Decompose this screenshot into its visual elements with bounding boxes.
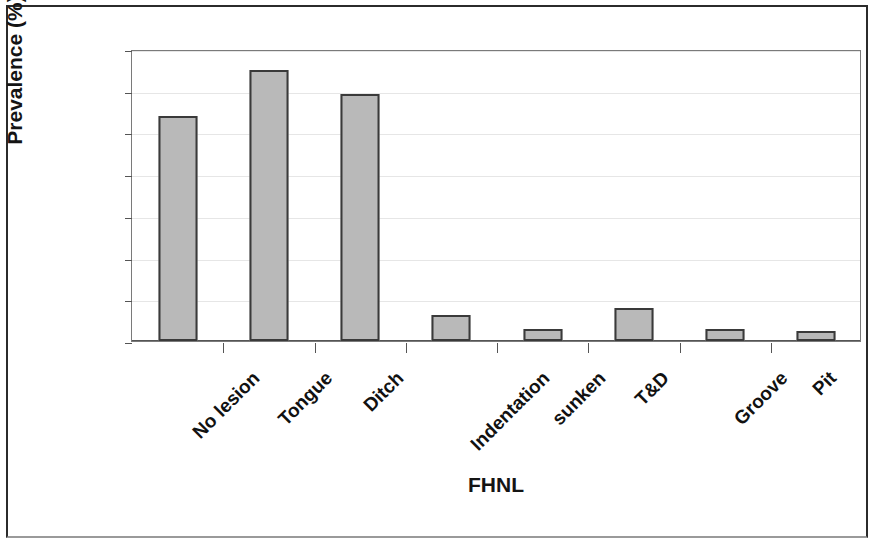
y-tick-mark xyxy=(125,260,132,261)
y-tick-mark xyxy=(125,343,132,344)
x-tick-mark xyxy=(497,343,498,353)
y-tick-mark xyxy=(125,93,132,94)
chart-figure: Prevalence (%) 05101520253035 FHNL No le… xyxy=(0,0,874,541)
bar-slot xyxy=(315,51,406,341)
x-axis-tick-label: T&D xyxy=(631,367,674,410)
y-tick-mark xyxy=(125,301,132,302)
bar-slot xyxy=(680,51,771,341)
plot-area: 05101520253035 xyxy=(131,50,861,342)
x-axis-tick-label: sunken xyxy=(547,367,610,430)
y-tick-mark xyxy=(125,218,132,219)
y-tick-mark xyxy=(125,176,132,177)
bar-slot xyxy=(588,51,679,341)
x-axis-tick-label: Indentation xyxy=(467,367,555,455)
bar[interactable] xyxy=(249,70,288,341)
x-tick-mark xyxy=(315,343,316,353)
bar-slot xyxy=(406,51,497,341)
bar[interactable] xyxy=(158,116,197,341)
x-tick-mark xyxy=(680,343,681,353)
x-axis-tick-label: Tongue xyxy=(274,367,337,430)
x-axis-title: FHNL xyxy=(131,473,861,497)
bar[interactable] xyxy=(706,329,745,342)
x-tick-mark xyxy=(588,343,589,353)
bar[interactable] xyxy=(341,94,380,341)
y-tick-mark xyxy=(125,51,132,52)
bar[interactable] xyxy=(432,315,471,341)
y-tick-mark xyxy=(125,134,132,135)
bar-slot xyxy=(771,51,862,341)
bar[interactable] xyxy=(523,329,562,342)
x-axis-tick-label: Pit xyxy=(809,367,842,400)
bar-slot xyxy=(223,51,314,341)
x-tick-mark xyxy=(223,343,224,353)
x-axis-tick-label: Ditch xyxy=(359,367,408,416)
bar-slot xyxy=(132,51,223,341)
x-tick-mark xyxy=(771,343,772,353)
x-tick-mark xyxy=(406,343,407,353)
bar-slot xyxy=(497,51,588,341)
x-axis-tick-label: Groove xyxy=(730,367,793,430)
x-axis-tick-label: No lesion xyxy=(188,367,264,443)
bar[interactable] xyxy=(797,331,836,341)
y-axis-title: Prevalence (%) xyxy=(3,0,27,190)
bar[interactable] xyxy=(614,308,653,341)
figure-border: Prevalence (%) 05101520253035 FHNL No le… xyxy=(6,5,868,538)
